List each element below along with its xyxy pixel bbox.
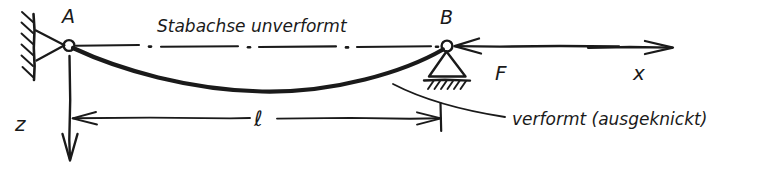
label-length: ℓ [253, 107, 263, 131]
buckling-diagram: A Stabachse unverformt [0, 0, 782, 169]
wall-hatching-a [22, 12, 34, 77]
label-force-f: F [495, 61, 507, 85]
dimension-line-left [73, 118, 250, 119]
label-node-b: B [440, 6, 453, 28]
force-arrow-shaft [455, 46, 619, 47]
z-axis-arrow-group [63, 56, 78, 161]
dimension-line-right [277, 118, 440, 119]
label-axis-x: x [632, 61, 645, 85]
label-node-a: A [60, 5, 75, 27]
z-axis-shaft [69, 56, 70, 159]
leader-line-deformed [393, 84, 505, 117]
x-axis-shaft [588, 47, 672, 48]
dimension-tick-right [441, 103, 442, 131]
deformed-beam-curve [73, 48, 443, 92]
x-axis-arrow-group [588, 41, 673, 54]
diagram-canvas: A Stabachse unverformt [0, 0, 782, 169]
wall-line-a [34, 14, 35, 80]
force-arrow-group [455, 39, 620, 54]
undeformed-axis-line [76, 45, 438, 47]
pin-joint-b [442, 41, 453, 52]
support-triangle-a [36, 31, 65, 61]
label-undeformed-axis: Stabachse unverformt [157, 16, 348, 36]
label-axis-z: z [14, 112, 26, 136]
label-deformed-note: verformt (ausgeknickt) [512, 109, 707, 129]
ground-hatching-b [428, 81, 466, 89]
